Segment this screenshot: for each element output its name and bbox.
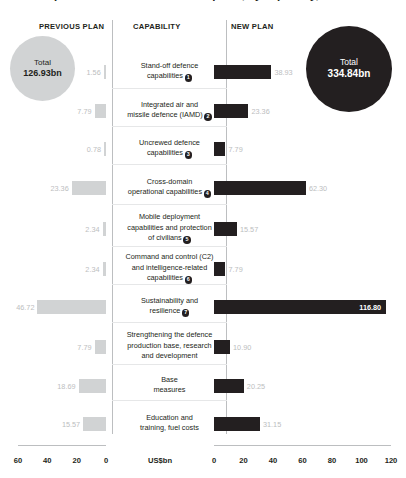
total-label-previous: Total [34,58,51,68]
axis-tick-right: 60 [298,456,306,465]
bar-previous-plan [103,222,106,236]
capability-label-line: Stand-off defence [114,61,225,71]
capability-label-line: Integrated air and [114,100,225,110]
chart-title: German procurement and investment plans,… [8,0,347,1]
total-value-new: 334.84bn [328,68,371,81]
capability-label-line: Base [114,375,225,385]
value-label-new-plan: 20.25 [247,382,265,391]
capability-label-line: Command and control (C2) [114,252,225,262]
column-header-previous-plan: PREVIOUS PLAN [39,22,104,31]
bar-new-plan [214,142,225,156]
value-label-previous-plan: 2.34 [0,225,100,234]
capability-label-line: missile defence (IAMD)2 [114,110,225,121]
column-divider-left [112,20,113,434]
bar-previous-plan [104,142,106,156]
capability-number-badge: 7 [182,309,190,317]
row-separator [112,246,227,247]
capability-label-line: Mobile deployment [114,212,225,222]
capability-label-line: resilience7 [114,306,225,317]
axis-tick-right: 80 [328,456,336,465]
value-label-new-plan: 10.90 [233,343,251,352]
value-label-new-plan: 15.57 [240,225,258,234]
row-separator [112,364,227,365]
axis-tick-right: 120 [385,456,398,465]
capability-label: Stand-off defencecapabilities1 [114,61,225,82]
axis-tick-left: 60 [14,456,22,465]
axis-line-left [18,445,106,446]
value-label-new-plan: 7.79 [228,145,242,154]
capability-label-line: capabilities and protection [114,223,225,233]
bar-new-plan [214,222,237,236]
bar-previous-plan [95,104,106,118]
capability-label-line: of civilians5 [114,233,225,244]
bar-previous-plan [37,300,106,314]
capability-label: Education andtraining, fuel costs [114,413,225,434]
capability-label-line: operational capabilities4 [114,187,225,198]
capability-number-badge: 1 [185,74,193,82]
value-label-new-plan: 62.30 [309,184,327,193]
capability-label-line: measures [114,385,225,395]
bar-previous-plan [104,65,106,79]
value-label-previous-plan: 2.34 [0,265,100,274]
capability-label-line: and intelligence-related [114,263,225,273]
row-separator [112,322,227,323]
capability-label-line: Strengthening the defence [114,330,225,340]
capability-number-badge: 5 [183,236,191,244]
row-separator [112,284,227,285]
capability-label: Command and control (C2)and intelligence… [114,252,225,283]
value-label-previous-plan: 7.79 [0,343,92,352]
capability-label-line: Education and [114,413,225,423]
row-separator [112,164,227,165]
row-separator [112,400,227,401]
total-bubble-new-plan: Total 334.84bn [306,26,392,112]
axis-tick-left: 20 [72,456,80,465]
value-label-new-plan: 38.93 [274,68,292,77]
value-label-previous-plan: 23.36 [0,184,69,193]
value-label-previous-plan: 1.56 [0,68,101,77]
capability-number-badge: 2 [204,113,212,121]
bar-new-plan [214,181,306,195]
capability-label: Integrated air andmissile defence (IAMD)… [114,100,225,121]
bar-new-plan [214,417,260,431]
bar-new-plan [214,340,230,354]
capability-label: Uncrewed defencecapabilities3 [114,138,225,159]
capability-label-line: capabilities3 [114,148,225,159]
bar-new-plan [214,104,248,118]
bar-previous-plan [83,417,106,431]
axis-line-right [214,445,391,446]
axis-tick-left: 0 [104,456,108,465]
capability-label-line: Uncrewed defence [114,138,225,148]
capability-number-badge: 6 [185,276,193,284]
bar-new-plan [214,379,244,393]
value-label-new-plan: 31.15 [263,420,281,429]
axis-tick-right: 40 [269,456,277,465]
capability-label: Mobile deploymentcapabilities and protec… [114,212,225,243]
row-separator [112,204,227,205]
axis-tick-right: 0 [212,456,216,465]
capability-number-badge: 4 [204,190,212,198]
bar-previous-plan [103,262,106,276]
column-header-new-plan: NEW PLAN [231,22,274,31]
capability-label-line: and development [114,351,225,361]
axis-unit-label: US$bn [148,456,172,465]
capability-label: Cross-domainoperational capabilities4 [114,177,225,198]
capability-label-line: training, fuel costs [114,423,225,433]
capability-label-line: Cross-domain [114,177,225,187]
value-label-new-plan: 23.36 [251,107,269,116]
capability-label-line: Sustainability and [114,296,225,306]
chart-canvas: German procurement and investment plans,… [0,0,406,478]
axis-tick-right: 20 [239,456,247,465]
capability-label: Sustainability andresilience7 [114,296,225,317]
capability-label-line: production base, research [114,341,225,351]
value-label-previous-plan: 15.57 [0,420,80,429]
value-label-new-plan: 116.80 [359,303,381,312]
bar-new-plan [214,65,271,79]
column-header-capability: CAPABILITY [133,22,181,31]
capability-label: Basemeasures [114,375,225,396]
value-label-previous-plan: 0.78 [0,145,101,154]
bar-new-plan [214,262,225,276]
total-label-new: Total [340,57,358,68]
value-label-previous-plan: 46.72 [0,303,34,312]
row-separator [112,126,227,127]
capability-label-line: capabilities1 [114,71,225,82]
